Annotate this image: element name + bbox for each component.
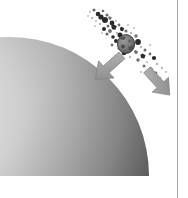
debris-speck xyxy=(125,30,128,33)
debris-speck xyxy=(105,32,108,35)
debris-speck xyxy=(106,14,109,17)
debris-speck xyxy=(149,53,152,56)
debris-speck xyxy=(152,56,156,60)
debris-speck xyxy=(161,67,163,69)
debris-speck xyxy=(102,17,108,23)
debris-speck xyxy=(136,58,139,61)
debris-speck xyxy=(107,25,110,28)
debris-speck xyxy=(146,61,148,63)
debris-speck xyxy=(115,20,117,22)
figure-root: Planetary limb with disrupted-body debri… xyxy=(0,0,188,198)
debris-speck xyxy=(127,24,129,26)
debris-speck xyxy=(149,44,151,46)
figure-canvas xyxy=(0,0,188,198)
debris-speck xyxy=(135,39,141,45)
debris-speck xyxy=(129,56,131,58)
debris-speck xyxy=(89,11,91,13)
debris-speck xyxy=(94,25,96,27)
debris-speck xyxy=(92,8,95,11)
debris-speck xyxy=(102,27,106,31)
debris-speck xyxy=(91,17,93,19)
debris-speck xyxy=(133,27,135,29)
primary-fragment xyxy=(117,35,134,54)
debris-speck xyxy=(130,32,132,34)
debris-speck xyxy=(118,24,121,27)
debris-speck xyxy=(156,63,159,66)
debris-speck xyxy=(95,20,97,22)
debris-speck xyxy=(165,71,167,73)
debris-speck xyxy=(87,15,89,17)
debris-speck xyxy=(140,46,143,49)
debris-speck xyxy=(102,10,105,13)
debris-speck xyxy=(111,35,115,39)
debris-speck xyxy=(134,34,137,37)
debris-speck xyxy=(143,65,146,68)
debris-speck xyxy=(101,32,103,34)
debris-speck xyxy=(99,23,101,25)
debris-speck xyxy=(144,49,147,52)
debris-speck xyxy=(111,44,114,47)
debris-speck xyxy=(140,71,142,73)
debris-speck xyxy=(108,29,112,33)
